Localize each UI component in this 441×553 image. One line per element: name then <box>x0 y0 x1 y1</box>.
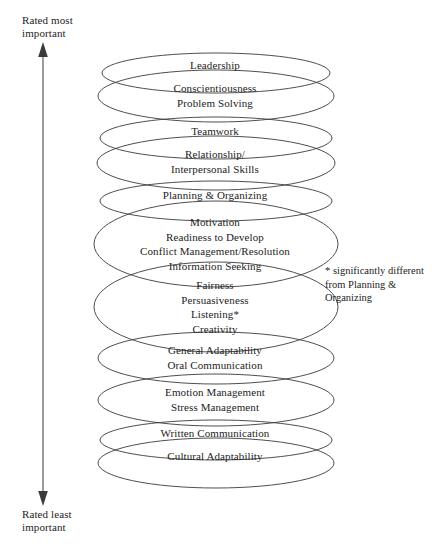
band-line: Conflict Management/Resolution <box>97 244 333 259</box>
band-line: Cultural Adaptability <box>97 449 333 464</box>
band-line: Emotion Management <box>97 385 333 400</box>
band-line: Teamwork <box>97 124 333 139</box>
band-line: Relationship/ <box>97 147 333 162</box>
band-line: Conscientiousness <box>97 81 333 96</box>
figure-root: Rated most important Rated least importa… <box>0 0 441 553</box>
band-line: Oral Communication <box>97 358 333 373</box>
band-line: Leadership <box>97 58 333 73</box>
band-motivation-group: MotivationReadiness to DevelopConflict M… <box>97 215 333 273</box>
band-line: Listening* <box>97 307 333 322</box>
band-line: Information Seeking <box>97 259 333 274</box>
band-line: General Adaptability <box>97 343 333 358</box>
band-cultural-adaptability: Cultural Adaptability <box>97 449 333 464</box>
band-line: Readiness to Develop <box>97 230 333 245</box>
band-line: Written Communication <box>97 426 333 441</box>
band-leadership: Leadership <box>97 58 333 73</box>
band-fairness-group: FairnessPersuasivenessListening*Creativi… <box>97 278 333 336</box>
significance-footnote: * significantly different from Planning … <box>325 264 437 305</box>
band-planning-organizing: Planning & Organizing <box>97 188 333 203</box>
band-line: Motivation <box>97 215 333 230</box>
band-teamwork: Teamwork <box>97 124 333 139</box>
band-line: Problem Solving <box>97 96 333 111</box>
band-line: Planning & Organizing <box>97 188 333 203</box>
band-line: Fairness <box>97 278 333 293</box>
band-line: Creativity <box>97 322 333 337</box>
band-line: Interpersonal Skills <box>97 162 333 177</box>
band-emotion-management: Emotion ManagementStress Management <box>97 385 333 414</box>
band-conscientiousness: ConscientiousnessProblem Solving <box>97 81 333 110</box>
band-line: Persuasiveness <box>97 293 333 308</box>
band-general-adaptability: General AdaptabilityOral Communication <box>97 343 333 372</box>
band-relationship: Relationship/Interpersonal Skills <box>97 147 333 176</box>
band-line: Stress Management <box>97 400 333 415</box>
band-written-communication: Written Communication <box>97 426 333 441</box>
